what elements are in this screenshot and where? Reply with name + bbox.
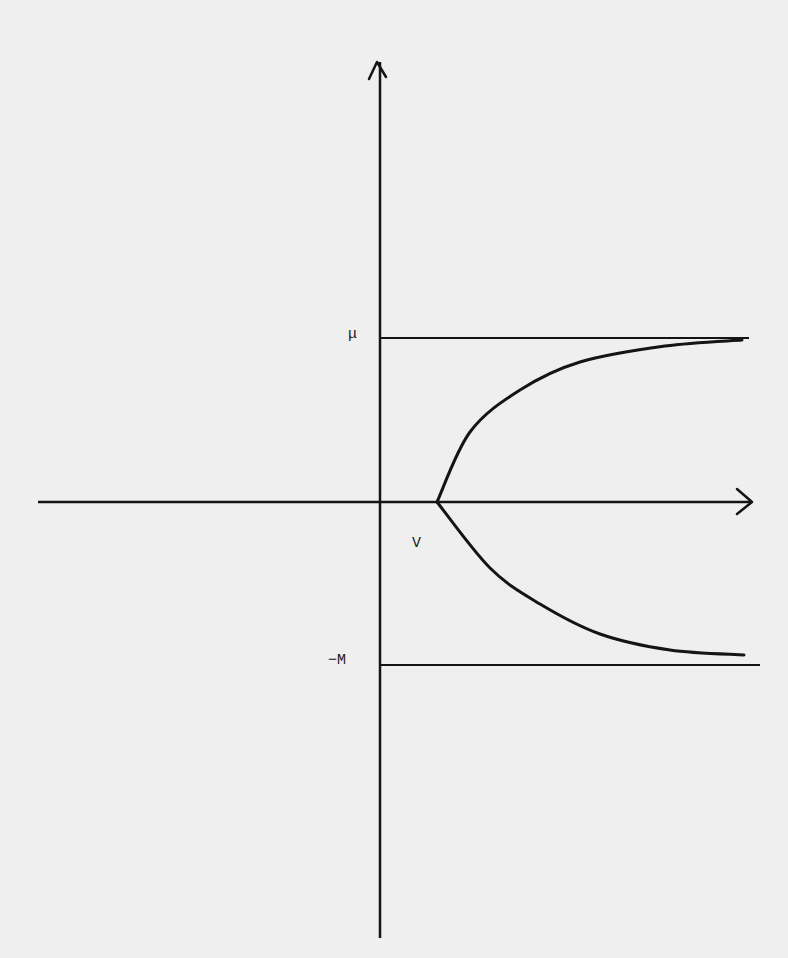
lower-branch-curve bbox=[437, 502, 744, 655]
lower-bound-label: −M bbox=[328, 652, 346, 669]
upper-bound-label: μ bbox=[348, 326, 357, 343]
vertex-label: V bbox=[412, 535, 421, 552]
diagram-canvas bbox=[0, 0, 788, 958]
upper-branch-curve bbox=[437, 340, 742, 502]
vertical-axis-arrowhead-icon bbox=[369, 62, 386, 79]
